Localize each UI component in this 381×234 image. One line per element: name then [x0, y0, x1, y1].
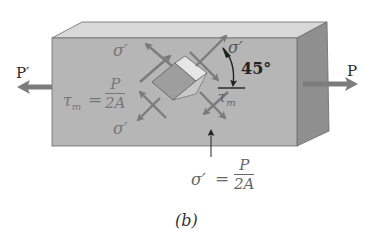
tau-subscript: m [226, 97, 235, 108]
tau-equation-lhs: τm [63, 93, 81, 112]
sigma-equation-lhs: σ′ [191, 172, 206, 188]
tau-eq-symbol: τ [63, 91, 72, 110]
sigma-label-top-right: σ′ [228, 40, 243, 56]
bar-top-face [52, 22, 327, 38]
tau-label-right: τm [218, 90, 236, 108]
load-arrow-left [17, 80, 52, 94]
load-label-right: P [347, 64, 357, 79]
tau-eq-numerator: P [109, 77, 121, 92]
sigma-equation-fraction: P 2A [234, 158, 254, 192]
tau-equation-fraction: P 2A [105, 77, 125, 111]
diagram-canvas [0, 0, 381, 234]
sigma-eq-denominator: 2A [234, 177, 254, 192]
load-label-left: P′ [16, 66, 30, 81]
sigma-label-top-left: σ′ [113, 43, 128, 59]
axial-load-stress-diagram: P′ P 45° σ′ σ′ σ′ τm τm = P 2A σ′ = P 2A… [0, 0, 381, 234]
angle-label: 45° [241, 61, 271, 77]
sigma-equation-sign: = [215, 170, 229, 187]
tau-eq-denominator: 2A [105, 96, 125, 111]
sigma-label-bottom-left: σ′ [113, 121, 128, 137]
tau-eq-subscript: m [72, 101, 81, 112]
tau-equation-sign: = [88, 91, 102, 108]
figure-caption: (b) [175, 213, 198, 229]
sigma-eq-numerator: P [238, 158, 250, 173]
